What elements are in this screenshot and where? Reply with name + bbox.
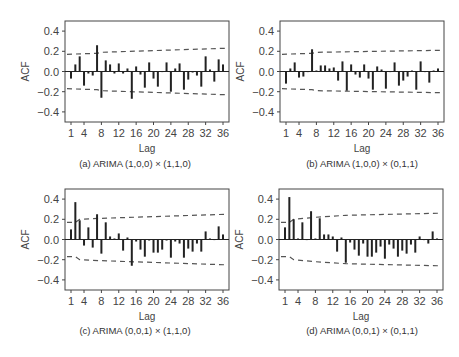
acf-bar	[294, 62, 296, 71]
acf-bar	[407, 72, 409, 77]
acf-bar	[79, 56, 81, 71]
x-tick-label: 8	[312, 295, 318, 307]
acf-bar	[183, 72, 185, 90]
acf-bar	[144, 240, 146, 257]
acf-bar	[432, 231, 434, 239]
acf-bar	[298, 72, 300, 78]
x-tick-label: 28	[396, 295, 408, 307]
acf-bar	[74, 64, 76, 71]
y-tick-label: 0.2	[259, 45, 274, 57]
acf-bar	[70, 229, 72, 239]
y-tick-label: 0.2	[44, 213, 59, 225]
x-tick-label: 20	[147, 127, 159, 139]
y-tick-label: −0.4	[37, 106, 59, 118]
acf-bar	[314, 238, 316, 239]
x-tick-label: 1	[68, 127, 74, 139]
acf-chart-a: 0.40.20.0−0.2−0.4ACF14812162024283236Lag	[0, 0, 230, 178]
acf-bar	[293, 219, 295, 239]
acf-bar	[79, 220, 81, 239]
lower-confidence-band	[67, 257, 225, 265]
y-axis-label: ACF	[20, 230, 31, 250]
acf-bar	[118, 63, 120, 71]
x-tick-label: 4	[296, 127, 302, 139]
acf-bar	[100, 72, 102, 98]
acf-bar	[170, 72, 172, 92]
y-tick-label: 0.2	[258, 213, 273, 225]
acf-bar	[131, 240, 133, 266]
acf-bar	[118, 233, 120, 239]
x-tick-label: 24	[165, 295, 177, 307]
acf-bar	[200, 72, 202, 87]
lower-confidence-band	[281, 257, 439, 266]
acf-bar	[157, 72, 159, 87]
acf-bar	[310, 211, 312, 239]
acf-bar	[284, 227, 286, 239]
acf-bar	[139, 72, 141, 75]
x-tick-label: 24	[380, 127, 392, 139]
acf-bar	[358, 240, 360, 256]
upper-confidence-band	[67, 48, 225, 54]
x-tick-label: 12	[113, 127, 125, 139]
y-axis-label: ACF	[20, 62, 31, 82]
acf-bar	[209, 69, 211, 71]
x-axis-label: Lag	[354, 143, 371, 154]
acf-bar	[213, 240, 215, 241]
acf-bar	[126, 68, 128, 71]
x-tick-label: 8	[98, 127, 104, 139]
acf-bar	[179, 63, 181, 71]
acf-bar	[376, 66, 378, 71]
acf-bar	[371, 240, 373, 257]
acf-bar	[332, 236, 334, 239]
x-tick-label: 8	[313, 127, 319, 139]
acf-bar	[192, 240, 194, 252]
y-tick-label: −0.2	[37, 86, 59, 98]
x-tick-label: 32	[200, 295, 212, 307]
acf-bar	[187, 72, 189, 80]
y-tick-label: −0.2	[252, 86, 274, 98]
acf-panel-d: 0.40.20.0−0.2−0.4ACF14812162024283236Lag…	[230, 180, 459, 357]
x-axis-label: Lag	[139, 143, 156, 154]
x-tick-label: 36	[217, 295, 229, 307]
acf-bar	[319, 218, 321, 239]
acf-bar	[380, 240, 382, 247]
caption-b: (b) ARIMA (1,0,0) × (0,1,1)	[262, 158, 459, 169]
acf-bar	[83, 72, 85, 86]
upper-confidence-band	[282, 50, 440, 54]
x-tick-label: 28	[182, 295, 194, 307]
acf-bar	[328, 68, 330, 71]
acf-bar	[311, 49, 313, 71]
acf-bar	[192, 72, 194, 73]
acf-bar	[148, 62, 150, 71]
x-tick-label: 28	[182, 127, 194, 139]
acf-bar	[205, 56, 207, 71]
acf-bar	[183, 240, 185, 258]
acf-bar	[218, 59, 220, 71]
acf-bar	[433, 70, 435, 71]
acf-bar	[209, 238, 211, 239]
acf-bar	[394, 62, 396, 71]
x-tick-label: 12	[327, 295, 339, 307]
acf-bar	[187, 240, 189, 249]
acf-bar	[389, 72, 391, 73]
acf-bar	[87, 72, 89, 74]
caption-a: (a) ARIMA (1,0,0) × (1,1,0)	[35, 158, 235, 169]
acf-bar	[336, 240, 338, 252]
acf-bar	[320, 65, 322, 71]
acf-bar	[367, 240, 369, 257]
acf-bar	[354, 72, 356, 75]
y-tick-label: 0.4	[44, 25, 59, 37]
x-tick-label: 16	[345, 127, 357, 139]
acf-bar	[92, 72, 94, 76]
acf-bar	[346, 72, 348, 91]
acf-bar	[427, 240, 429, 244]
acf-bar	[135, 240, 137, 242]
acf-bar	[385, 72, 387, 89]
x-tick-label: 4	[81, 295, 87, 307]
acf-bar	[70, 72, 72, 79]
acf-bar	[222, 64, 224, 71]
x-tick-label: 32	[415, 127, 427, 139]
acf-bar	[222, 234, 224, 239]
x-tick-label: 16	[130, 295, 142, 307]
x-tick-label: 28	[397, 127, 409, 139]
acf-bar	[170, 240, 172, 258]
